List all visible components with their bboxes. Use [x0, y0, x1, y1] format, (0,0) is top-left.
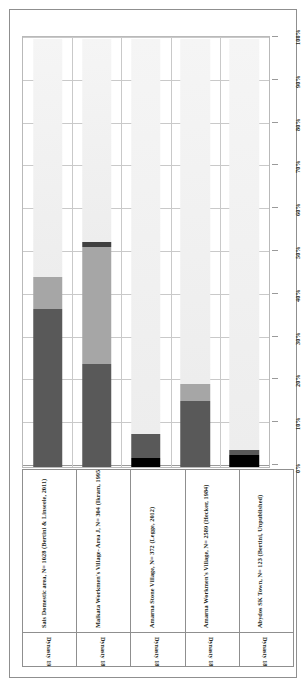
bar-segment-fishing[interactable] [131, 434, 161, 459]
site-label-cell: Malkata Workmen's Village- Area J, N= 30… [77, 469, 130, 633]
y-axis-tick [272, 421, 278, 422]
bar-segment-fishing[interactable] [180, 401, 210, 467]
bar-column[interactable] [121, 37, 170, 467]
y-axis-tick-label: 100% [294, 29, 301, 45]
y-axis-tick [272, 336, 278, 337]
category-column: Amarna Stone Village, N= 372 (Legge, 201… [130, 469, 184, 667]
category-column: Amarna Workmen's Village, N= 2589 (Hecke… [185, 469, 239, 667]
stacked-bar[interactable] [131, 37, 161, 467]
site-label: Abydos SK Town, N= 123 (Bertini, Unpubli… [256, 495, 263, 628]
bar-segment-collecting-of-molluscs[interactable] [131, 458, 161, 467]
y-axis-tick-label: 0% [294, 464, 301, 473]
dynasty-label: Dynasty 18 [154, 637, 161, 666]
bar-segment-stock-keeping[interactable] [230, 39, 260, 450]
site-label-cell: Amarna Stone Village, N= 372 (Legge, 201… [131, 469, 184, 633]
bar-segment-fowling[interactable] [180, 384, 210, 400]
bar-segment-stock-keeping[interactable] [180, 39, 210, 384]
y-axis-tick-label: 40% [294, 289, 301, 302]
stacked-bar[interactable] [180, 37, 210, 467]
bar-segment-stock-keeping[interactable] [82, 39, 112, 242]
y-axis-tick [272, 79, 278, 80]
bar-segment-stock-keeping[interactable] [131, 39, 161, 434]
y-axis-tick-label: 90% [294, 75, 301, 88]
y-axis-tick [272, 250, 278, 251]
bar-column[interactable] [23, 37, 72, 467]
dynasty-label: Dynasty 18 [208, 637, 215, 666]
y-axis-tick [272, 36, 278, 37]
y-axis-tick-label: 20% [294, 375, 301, 388]
site-label: Malkata Workmen's Village- Area J, N= 30… [94, 469, 101, 628]
y-axis-tick [272, 378, 278, 379]
site-label: Sais Domestic area, N= 1028 (Bertini & L… [40, 479, 47, 628]
site-label-cell: Abydos SK Town, N= 123 (Bertini, Unpubli… [240, 469, 293, 633]
dynasty-label-cell: Dynasty 18 [240, 633, 293, 667]
bar-segment-fishing[interactable] [33, 309, 63, 467]
bar-segment-fowling[interactable] [33, 277, 63, 309]
plot-area [22, 36, 270, 468]
category-column: Abydos SK Town, N= 123 (Bertini, Unpubli… [239, 469, 294, 667]
y-axis-tick [272, 207, 278, 208]
bar-segment-collecting-of-molluscs[interactable] [230, 455, 260, 467]
y-axis-tick [272, 293, 278, 294]
y-axis-tick [272, 122, 278, 123]
dynasty-label-cell: Dynasty 18 [131, 633, 184, 667]
y-axis-tick-label: 60% [294, 204, 301, 217]
y-axis-tick [272, 464, 278, 465]
y-axis: 100%90%80%70%60%50%40%30%20%10%0% [272, 36, 296, 468]
y-axis-tick-label: 10% [294, 418, 301, 431]
stacked-bar[interactable] [82, 37, 112, 467]
bar-segment-stock-keeping[interactable] [33, 39, 63, 277]
figure-frame: Collecting of molluscs Fishing Fowling H… [9, 9, 297, 678]
bar-column[interactable] [220, 37, 269, 467]
bar-column[interactable] [72, 37, 121, 467]
category-label-table: Sais Domestic area, N= 1028 (Bertini & L… [22, 469, 294, 667]
site-label-cell: Amarna Workmen's Village, N= 2589 (Hecke… [186, 469, 239, 633]
dynasty-label-cell: Dynasty 18 [77, 633, 130, 667]
y-axis-tick-label: 70% [294, 161, 301, 174]
site-label: Amarna Workmen's Village, N= 2589 (Hecke… [202, 485, 209, 628]
dynasty-label-cell: Dynasty 19-20 [23, 633, 76, 667]
y-axis-tick-label: 30% [294, 332, 301, 345]
bar-segment-fowling[interactable] [82, 247, 112, 365]
category-column: Malkata Workmen's Village- Area J, N= 30… [76, 469, 130, 667]
bar-segment-fishing[interactable] [82, 364, 112, 467]
stacked-bar[interactable] [33, 37, 63, 467]
y-axis-tick-label: 50% [294, 246, 301, 259]
dynasty-label-cell: Dynasty 18 [186, 633, 239, 667]
y-axis-tick [272, 164, 278, 165]
stacked-bar[interactable] [230, 37, 260, 467]
site-label: Amarna Stone Village, N= 372 (Legge, 201… [148, 507, 155, 628]
category-column: Sais Domestic area, N= 1028 (Bertini & L… [22, 469, 76, 667]
dynasty-label: Dynasty 18 [100, 637, 107, 666]
dynasty-label: Dynasty 19-20 [46, 637, 53, 667]
y-axis-tick-label: 80% [294, 118, 301, 131]
dynasty-label: Dynasty 18 [262, 637, 269, 666]
bar-column[interactable] [171, 37, 220, 467]
site-label-cell: Sais Domestic area, N= 1028 (Bertini & L… [23, 469, 76, 633]
